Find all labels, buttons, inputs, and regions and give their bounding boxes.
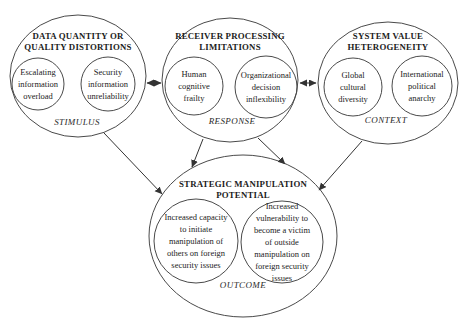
stimulus-circle-2-text: Security information unreliability [80,66,136,102]
arrow-stimulus-outcome [104,133,162,194]
outcome-circle-2-text: Increased vulnerability to become a vict… [241,200,323,284]
response-label: RESPONSE [192,116,272,126]
diagram-page: DATA QUANTITY OR QUALITY DISTORTIONS Esc… [0,0,465,327]
context-circle-1-text: Global cultural diversity [325,69,381,105]
response-title: RECEIVER PROCESSING LIMITATIONS [165,31,295,53]
context-title: SYSTEM VALUE HETEROGENEITY [328,31,448,53]
stimulus-label: STIMULUS [37,117,117,127]
outcome-label: OUTCOME [198,280,288,290]
response-circle-1-text: Human cognitive frailty [166,68,222,104]
arrow-response-outcome-right [258,138,285,164]
context-label: CONTEXT [346,115,426,125]
response-circle-2-text: Organizational decision inflexibility [234,69,298,105]
outcome-circle-1-text: Increased capacity to initiate manipulat… [154,211,238,271]
stimulus-circle-1-text: Escalating information overload [12,66,64,102]
context-circle-2-text: International political anarchy [391,68,453,104]
stimulus-title: DATA QUANTITY OR QUALITY DISTORTIONS [8,31,148,53]
arrow-response-outcome-left [192,139,203,167]
outcome-title: STRATEGIC MANIPULATION POTENTIAL [158,179,328,201]
